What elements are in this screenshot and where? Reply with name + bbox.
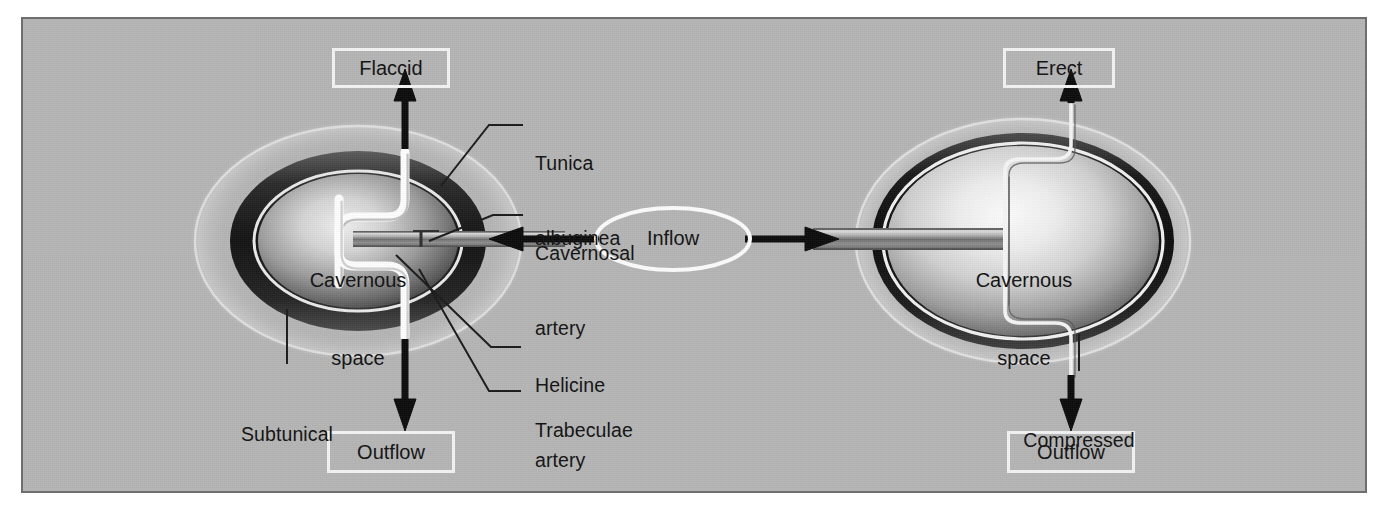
- diagram-panel: Flaccid Erect Outflow Outflow Inflow Cav…: [21, 17, 1367, 493]
- callout-subtunical-venule-space: Subtunical venule space: [175, 372, 399, 493]
- flaccid-cavernous-line2: space: [273, 345, 443, 371]
- subtunical-venule-line1: Subtunical: [175, 422, 399, 447]
- inflow-label-text: Inflow: [647, 227, 699, 249]
- figure-root: Flaccid Erect Outflow Outflow Inflow Cav…: [0, 0, 1389, 516]
- callout-trabeculae: Trabeculae Smooth muscle collagen elasti…: [535, 368, 671, 493]
- cavernosal-artery-line1: Cavernosal: [535, 241, 635, 266]
- callout-compressed-subtunical-venule: Compressed subtunical venule: [967, 378, 1191, 493]
- flaccid-cavernous-line1: Cavernous: [273, 267, 443, 293]
- erect-state-box: Erect: [1003, 48, 1115, 88]
- erect-cavernous-line2: space: [939, 345, 1109, 371]
- trabeculae-line1: Trabeculae: [535, 418, 671, 443]
- flaccid-state-label: Flaccid: [359, 57, 422, 80]
- tunica-albuginea-line1: Tunica: [535, 151, 620, 176]
- erect-state-label: Erect: [1036, 57, 1083, 80]
- compressed-venule-line1: Compressed: [967, 428, 1191, 453]
- erect-cavernous-line1: Cavernous: [939, 267, 1109, 293]
- flaccid-state-box: Flaccid: [332, 48, 450, 88]
